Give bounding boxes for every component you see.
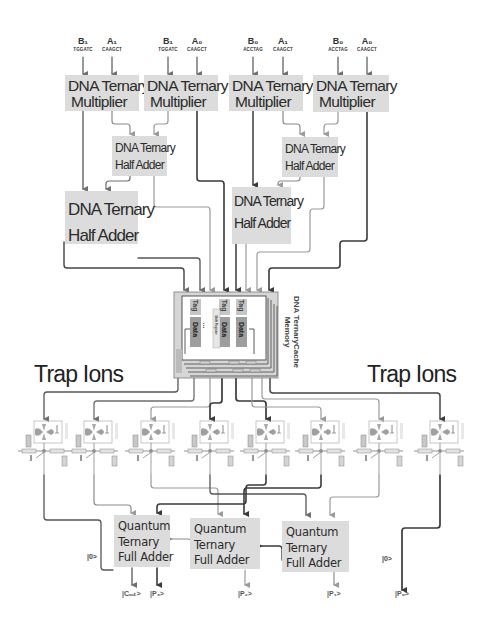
input-a0-a: A₀ CAAGCT bbox=[185, 36, 209, 52]
box-label-line2: Multiplier bbox=[68, 94, 139, 110]
box-label-line3: Full Adder bbox=[118, 550, 170, 566]
cache-data-1: Data bbox=[192, 319, 199, 341]
input-symbol: B₁ bbox=[71, 36, 95, 46]
box-label-line1: DNA Ternary bbox=[232, 78, 303, 94]
dna-ternary-multiplier-1: DNA Ternary Multiplier bbox=[65, 75, 139, 111]
cache-title-line2: Memory bbox=[283, 296, 292, 368]
trap-ion-units bbox=[18, 421, 464, 475]
box-label-line1: DNA Ternary bbox=[68, 197, 138, 223]
box-label-line1: DNA Ternary bbox=[115, 140, 167, 157]
trap-ion-unit bbox=[68, 421, 118, 475]
input-b0-a: B₀ ACCTAG bbox=[241, 36, 265, 52]
box-label-line1: Quantum bbox=[286, 525, 349, 541]
cache-title-line1: DNA TernaryCache bbox=[292, 296, 301, 368]
input-sequence: CAAGCT bbox=[355, 47, 379, 52]
output-p3: |P₃> bbox=[150, 590, 164, 597]
input-a1-b: A₁ CAAGCT bbox=[271, 36, 295, 52]
input-sequence: ACCTAG bbox=[241, 47, 265, 52]
box-label-line2: Multiplier bbox=[316, 94, 389, 110]
box-label-line2: Ternary bbox=[194, 538, 260, 554]
trap-ion-unit bbox=[353, 421, 403, 475]
input-symbol: A₁ bbox=[100, 36, 124, 46]
quantum-ternary-full-adder-2: Quantum Ternary Full Adder bbox=[190, 518, 260, 569]
input-sequence: CAAGCT bbox=[271, 47, 295, 52]
ternary-multiplier-diagram: B₁ TGGATC A₁ CAAGCT B₁ TGGATC A₀ CAAGCT … bbox=[0, 0, 487, 627]
dna-ternary-half-adder-large-2: DNA Ternary Half Adder bbox=[232, 187, 291, 244]
ancilla-right: |0> bbox=[382, 555, 392, 562]
output-p2: |P₂> bbox=[238, 590, 252, 597]
input-b1-b: B₁ TGGATC bbox=[156, 36, 180, 52]
input-sequence: CAAGCT bbox=[185, 47, 209, 52]
cache-data-2: Data bbox=[221, 319, 228, 341]
cache-shift-register: Shift Register bbox=[214, 314, 218, 336]
input-symbol: B₀ bbox=[326, 36, 350, 46]
input-sequence: TGGATC bbox=[156, 47, 180, 52]
trap-ion-unit bbox=[240, 421, 290, 475]
box-label-line2: Multiplier bbox=[147, 94, 218, 110]
box-label-line1: DNA Ternary bbox=[234, 191, 291, 213]
cache-title: DNA TernaryCache Memory bbox=[283, 296, 301, 368]
dna-ternary-half-adder-small-2: DNA Ternary Half Adder bbox=[282, 137, 338, 177]
cache-ellipsis: ... bbox=[202, 321, 209, 331]
input-symbol: A₁ bbox=[271, 36, 295, 46]
output-cout: |Cₒᵤₜ> bbox=[122, 590, 141, 598]
input-sequence: TGGATC bbox=[71, 47, 95, 52]
input-a1-a: A₁ CAAGCT bbox=[100, 36, 124, 52]
trap-ion-unit bbox=[295, 421, 345, 475]
input-sequence: ACCTAG bbox=[326, 47, 350, 52]
box-label-line2: Multiplier bbox=[232, 94, 303, 110]
output-p0: |P₀> bbox=[395, 590, 409, 597]
box-label-line3: Full Adder bbox=[286, 556, 349, 572]
cache-tag-3: Tag bbox=[238, 297, 245, 315]
input-symbol: B₁ bbox=[156, 36, 180, 46]
box-label-line2: Half Adder bbox=[234, 213, 291, 235]
input-sequence: CAAGCT bbox=[100, 47, 124, 52]
box-label-line3: Full Adder bbox=[194, 553, 260, 569]
dna-ternary-half-adder-large-1: DNA Ternary Half Adder bbox=[65, 191, 138, 244]
box-label-line1: DNA Ternary bbox=[147, 78, 218, 94]
box-label-line2: Ternary bbox=[118, 535, 170, 551]
input-a0-b: A₀ CAAGCT bbox=[355, 36, 379, 52]
dna-ternary-multiplier-3: DNA Ternary Multiplier bbox=[229, 75, 303, 111]
input-symbol: B₀ bbox=[241, 36, 265, 46]
trap-ion-unit bbox=[184, 421, 234, 475]
ancilla-left: |0> bbox=[87, 553, 97, 560]
dna-ternary-half-adder-small-1: DNA Ternary Half Adder bbox=[112, 136, 167, 176]
input-symbol: A₀ bbox=[185, 36, 209, 46]
trap-ions-label-left: Trap Ions bbox=[34, 361, 123, 388]
box-label-line2: Ternary bbox=[286, 541, 349, 557]
input-symbol: A₀ bbox=[355, 36, 379, 46]
box-label-line1: Quantum bbox=[118, 519, 170, 535]
trap-ion-unit bbox=[125, 421, 175, 475]
cache-tag-2: Tag bbox=[221, 297, 228, 315]
trap-ion-unit bbox=[18, 421, 68, 475]
box-label-line2: Half Adder bbox=[285, 158, 338, 175]
box-label-line1: DNA Ternary bbox=[68, 78, 139, 94]
trap-ions-label-right: Trap Ions bbox=[367, 361, 456, 388]
dna-ternary-multiplier-4: DNA Ternary Multiplier bbox=[313, 75, 389, 112]
trap-ion-unit bbox=[414, 421, 464, 475]
dna-ternary-multiplier-2: DNA Ternary Multiplier bbox=[144, 75, 218, 111]
quantum-ternary-full-adder-3: Quantum Ternary Full Adder bbox=[282, 521, 349, 572]
input-b1-a: B₁ TGGATC bbox=[71, 36, 95, 52]
box-label-line2: Half Adder bbox=[115, 157, 167, 174]
quantum-ternary-full-adder-1: Quantum Ternary Full Adder bbox=[114, 515, 170, 567]
box-label-line1: DNA Ternary bbox=[316, 78, 389, 94]
input-b0-b: B₀ ACCTAG bbox=[326, 36, 350, 52]
cache-tag-1: Tag bbox=[192, 297, 199, 315]
box-label-line1: Quantum bbox=[194, 522, 260, 538]
output-p1: |P₁> bbox=[327, 590, 341, 597]
box-label-line1: DNA Ternary bbox=[285, 141, 338, 158]
box-label-line2: Half Adder bbox=[68, 223, 138, 249]
cache-data-3: Data bbox=[238, 319, 245, 341]
